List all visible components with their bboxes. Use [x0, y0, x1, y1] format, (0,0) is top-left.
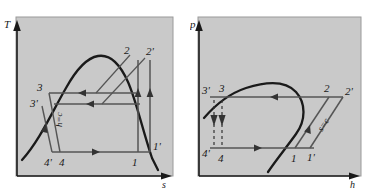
pressure-enthalpy-panel: s=c p h 3 3' 4 4' 1 1' 2 2' [190, 0, 378, 192]
state-point-1-prime-label: 1' [153, 140, 162, 152]
state-point-3-label: 3 [218, 82, 225, 94]
state-point-2-prime-label: 2' [146, 45, 155, 57]
state-point-4-label: 4 [59, 156, 65, 168]
state-point-4-prime-label: 4' [202, 147, 211, 159]
state-point-3-prime-label: 3' [29, 97, 39, 109]
state-point-4-label: 4 [218, 152, 224, 164]
state-point-4-prime-label: 4' [44, 156, 53, 168]
x-axis-label: h [350, 179, 355, 190]
state-point-3-prime-label: 3' [201, 84, 211, 96]
temperature-entropy-panel: h=c T s 3 3' 4 4' 1 1' 2 2' [0, 0, 190, 192]
state-point-3-label: 3 [36, 81, 43, 93]
state-point-2-label: 2 [124, 44, 130, 56]
state-point-1-prime-label: 1' [307, 151, 316, 163]
x-axis-label: s [162, 179, 166, 190]
process-label-h-const: h=c [54, 112, 64, 127]
state-point-2-label: 2 [324, 82, 330, 94]
ph-diagram-svg: s=c p h 3 3' 4 4' 1 1' 2 2' [190, 0, 378, 192]
state-point-1-label: 1 [291, 152, 297, 164]
figure-root: h=c T s 3 3' 4 4' 1 1' 2 2' [0, 0, 378, 192]
state-point-2-prime-label: 2' [345, 85, 354, 97]
ts-diagram-svg: h=c T s 3 3' 4 4' 1 1' 2 2' [0, 0, 190, 192]
y-axis-label: p [190, 18, 196, 30]
y-axis-label: T [4, 18, 11, 30]
state-point-1-label: 1 [132, 156, 138, 168]
